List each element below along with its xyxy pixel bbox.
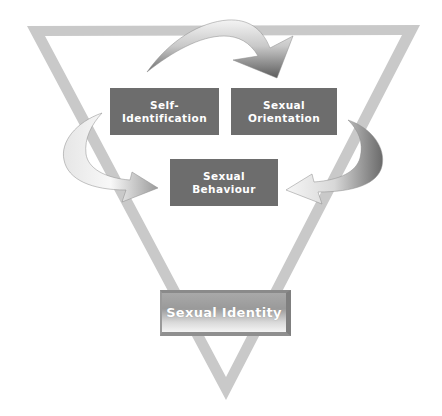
box-sexual-behaviour: Sexual Behaviour [170, 159, 278, 206]
box-self-identification-line1: Self- [150, 99, 179, 112]
box-sexual-orientation-line1: Sexual [263, 99, 305, 112]
box-self-identification-line2: Identification [122, 112, 207, 125]
box-self-identification: Self- Identification [110, 88, 219, 135]
box-sexual-behaviour-line2: Behaviour [192, 183, 256, 196]
box-sexual-identity: Sexual Identity [160, 290, 291, 336]
diagram-canvas: Self- Identification Sexual Orientation … [0, 0, 442, 416]
diagram-graphics [0, 0, 442, 416]
box-sexual-behaviour-line1: Sexual [203, 170, 245, 183]
box-sexual-orientation: Sexual Orientation [231, 88, 337, 135]
box-sexual-orientation-line2: Orientation [248, 112, 320, 125]
sexual-identity-label: Sexual Identity [166, 305, 282, 320]
triangle-frame [27, 25, 420, 400]
